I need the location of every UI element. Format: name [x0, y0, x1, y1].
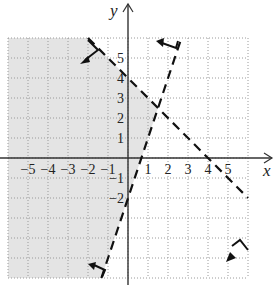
x-tick-label: 4	[205, 162, 212, 177]
x-tick-label: 2	[165, 162, 172, 177]
x-axis-label: x	[262, 161, 271, 180]
shade-direction-arrow-icon	[162, 41, 178, 48]
y-tick-label: −1	[109, 171, 124, 186]
y-tick-label: 1	[117, 131, 124, 146]
coordinate-plane: −5−4−3−2−11234554321−1−2 x y	[0, 0, 276, 285]
x-tick-label: −4	[41, 162, 56, 177]
x-tick-label: 3	[185, 162, 192, 177]
x-tick-label: 5	[225, 162, 232, 177]
shade-direction-arrow-icon-head	[156, 38, 164, 47]
y-tick-label: 3	[117, 91, 124, 106]
y-tick-label: −2	[109, 191, 124, 206]
x-tick-label: −5	[21, 162, 36, 177]
x-tick-label: −2	[81, 162, 96, 177]
x-tick-label: 1	[145, 162, 152, 177]
x-tick-label: −3	[61, 162, 76, 177]
y-tick-label: 2	[117, 111, 124, 126]
y-tick-label: 5	[117, 51, 124, 66]
shade-direction-arrow-icon	[232, 240, 248, 250]
y-axis-label: y	[108, 1, 118, 20]
